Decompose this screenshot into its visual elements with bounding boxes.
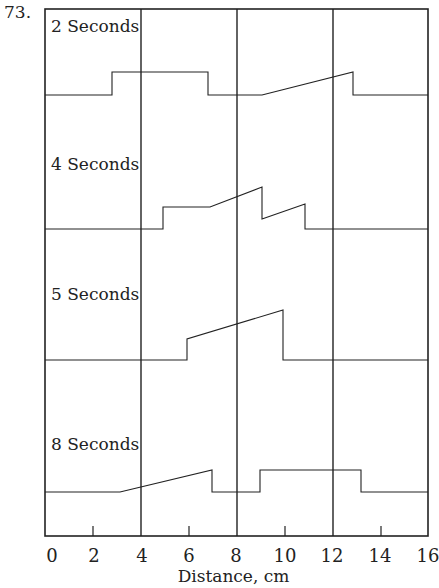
x-tick-0: 0 bbox=[46, 545, 57, 566]
snapshot-label-5s: 5 Seconds bbox=[51, 284, 139, 304]
x-tick-8: 8 bbox=[230, 545, 241, 566]
x-tick-12: 12 bbox=[321, 545, 344, 566]
x-tick-4: 4 bbox=[136, 545, 147, 566]
snapshot-label-4s: 4 Seconds bbox=[51, 154, 139, 174]
x-tick-14: 14 bbox=[369, 545, 392, 566]
snapshot-label-2s: 2 Seconds bbox=[51, 16, 139, 36]
x-tick-10: 10 bbox=[274, 545, 297, 566]
x-tick-16: 16 bbox=[417, 545, 439, 566]
x-tick-2: 2 bbox=[88, 545, 99, 566]
x-tick-6: 6 bbox=[183, 545, 194, 566]
x-axis-title: Distance, cm bbox=[0, 566, 437, 586]
snapshot-label-8s: 8 Seconds bbox=[51, 434, 139, 454]
